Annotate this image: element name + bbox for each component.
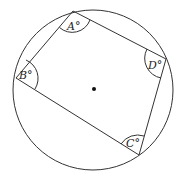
angle-label-A: A° bbox=[66, 20, 80, 33]
diagram-canvas: A° B° C° D° bbox=[0, 0, 177, 171]
cyclic-quadrilateral-diagram: A° B° C° D° bbox=[0, 0, 177, 171]
angle-label-C: C° bbox=[126, 137, 140, 150]
angle-label-B: B° bbox=[18, 69, 33, 82]
angle-label-D: D° bbox=[147, 59, 162, 72]
quadrilateral bbox=[16, 11, 166, 155]
center-point bbox=[92, 87, 96, 91]
